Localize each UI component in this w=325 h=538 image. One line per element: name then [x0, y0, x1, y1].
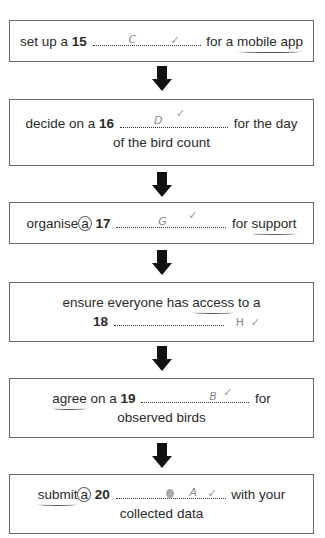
underlined-agree: agree	[52, 390, 87, 407]
down-arrow-icon	[151, 346, 173, 372]
handwritten-answer-20: A	[190, 487, 198, 498]
handwritten-answer-18: H	[236, 316, 244, 329]
check-mark-icon: ✓	[188, 210, 197, 221]
step-18-line-1: ensure everyone has access to a	[62, 294, 260, 311]
step-16-line-2: of the bird count	[113, 134, 210, 151]
answer-blank-17[interactable]: G ✓	[116, 223, 226, 228]
step-box-15: set up a 15 C ✓ for a mobile app	[9, 20, 314, 62]
step-20-line-1: submita 20 A ✓ with your	[38, 486, 286, 503]
step-box-17: organisea 17 G ✓ for support	[9, 202, 314, 244]
question-number-15: 15	[72, 34, 87, 49]
answer-blank-19[interactable]: B ✓	[141, 398, 249, 403]
step-15-after: for a	[206, 34, 233, 49]
handwritten-answer-15: C	[129, 34, 137, 45]
answer-blank-15[interactable]: C ✓	[93, 41, 201, 46]
step-19-line-2: observed birds	[117, 409, 206, 426]
answer-blank-18[interactable]	[114, 321, 224, 326]
handwritten-answer-17: G	[158, 216, 167, 227]
step-16-line-1: decide on a 16 D ✓ for the day	[26, 115, 298, 132]
step-18-after: to a	[238, 295, 261, 310]
step-19-after: for	[255, 391, 271, 406]
question-number-19: 19	[121, 391, 136, 406]
step-19-before: on a	[90, 391, 116, 406]
step-box-19: agree on a 19 B ✓ for observed birds	[9, 378, 314, 438]
check-mark-icon: ✓	[171, 35, 180, 46]
step-18-line-2: 18 H ✓	[63, 313, 260, 331]
down-arrow-icon	[151, 172, 173, 198]
check-mark-icon: ✓	[251, 316, 260, 328]
step-15-line: set up a 15 C ✓ for a mobile app	[20, 33, 303, 50]
crossed-out-answer	[166, 489, 174, 498]
step-20-after: with your	[231, 487, 285, 502]
underlined-access: access	[192, 294, 234, 311]
underlined-support: support	[252, 215, 297, 232]
step-18-before: ensure everyone has	[62, 295, 188, 310]
step-20-line-2: collected data	[120, 505, 203, 522]
step-17-after: for	[232, 216, 248, 231]
step-box-16: decide on a 16 D ✓ for the day of the bi…	[9, 99, 314, 166]
step-17-before: organise	[26, 216, 78, 231]
answer-blank-16[interactable]: D ✓	[120, 123, 228, 128]
step-15-before: set up a	[20, 34, 68, 49]
down-arrow-icon	[151, 66, 173, 92]
question-number-18: 18	[93, 314, 108, 329]
question-number-17: 17	[95, 216, 110, 231]
question-number-16: 16	[99, 116, 114, 131]
step-16-before: decide on a	[26, 116, 96, 131]
step-17-line: organisea 17 G ✓ for support	[26, 215, 296, 232]
step-box-18: ensure everyone has access to a 18 H ✓	[9, 282, 314, 342]
question-number-20: 20	[95, 487, 110, 502]
check-mark-icon: ✓	[208, 488, 217, 499]
step-box-20: submita 20 A ✓ with your collected data	[9, 474, 314, 534]
handwritten-answer-16: D	[154, 115, 162, 126]
down-arrow-icon	[151, 250, 173, 276]
underlined-submit: submit	[38, 486, 78, 503]
check-mark-icon: ✓	[176, 108, 185, 119]
answer-blank-20[interactable]: A ✓	[116, 494, 226, 499]
handwritten-answer-19: B	[209, 391, 217, 402]
check-mark-icon: ✓	[223, 387, 232, 398]
circled-article-a: a	[77, 487, 91, 502]
step-19-line-1: agree on a 19 B ✓ for	[52, 390, 271, 407]
underlined-mobile-app: mobile app	[237, 33, 303, 50]
down-arrow-icon	[151, 443, 173, 469]
circled-article-a: a	[78, 216, 92, 231]
step-16-after: for the day	[234, 116, 298, 131]
